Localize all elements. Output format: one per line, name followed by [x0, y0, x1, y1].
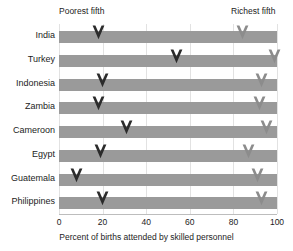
category-label-guatemala: Guatemala	[0, 167, 55, 191]
x-tick-label: 40	[141, 217, 150, 228]
chart-row	[59, 72, 277, 96]
x-tick-label: 80	[229, 217, 238, 228]
range-bar	[59, 79, 277, 91]
annotation-poorest-fifth: Poorest fifth	[59, 6, 104, 16]
x-tick-label: 0	[57, 217, 62, 228]
chart-container: Poorest fifth Richest fifth IndiaTurkeyI…	[0, 0, 293, 251]
category-label-cameroon: Cameroon	[0, 119, 55, 143]
range-bar	[59, 150, 277, 162]
range-bar	[59, 31, 277, 43]
chart-row	[59, 190, 277, 214]
x-tick-label: 20	[98, 217, 107, 228]
x-axis-line	[59, 214, 277, 215]
clipped-header-text	[18, 0, 248, 3]
range-bar	[59, 126, 277, 138]
category-label-indonesia: Indonesia	[0, 72, 55, 96]
category-axis-labels: IndiaTurkeyIndonesiaZambiaCameroonEgyptG…	[0, 24, 55, 214]
plot-area	[59, 24, 277, 214]
range-bar	[59, 174, 277, 186]
range-bar	[59, 102, 277, 114]
x-tick-label: 100	[270, 217, 284, 228]
chart-row	[59, 143, 277, 167]
category-label-india: India	[0, 24, 55, 48]
category-label-turkey: Turkey	[0, 48, 55, 72]
chart-row	[59, 95, 277, 119]
chart-row	[59, 48, 277, 72]
range-bar	[59, 55, 277, 67]
chart-row	[59, 24, 277, 48]
category-label-egypt: Egypt	[0, 143, 55, 167]
chart-row	[59, 167, 277, 191]
gridline	[277, 24, 278, 214]
x-axis-ticks: 020406080100	[59, 217, 277, 229]
x-axis-title: Percent of births attended by skilled pe…	[0, 232, 293, 242]
category-label-philippines: Philippines	[0, 190, 55, 214]
category-label-zambia: Zambia	[0, 95, 55, 119]
x-tick-label: 60	[185, 217, 194, 228]
chart-row	[59, 119, 277, 143]
range-bar	[59, 197, 277, 209]
annotation-richest-fifth: Richest fifth	[231, 6, 275, 16]
